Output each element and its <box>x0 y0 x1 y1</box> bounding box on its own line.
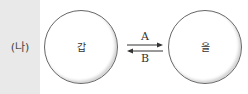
panel-label: (나) <box>0 38 40 54</box>
node-right-circle: 을 <box>168 10 242 84</box>
arrow-bottom-label: B <box>126 52 164 65</box>
exchange-arrows: A B <box>126 30 164 66</box>
diagram-panel: (나) 갑 A B 을 <box>0 0 248 94</box>
panel-label-strip: (나) <box>0 0 40 94</box>
node-left-circle: 갑 <box>44 10 118 84</box>
node-right-label: 을 <box>169 39 241 54</box>
node-left-label: 갑 <box>45 39 117 54</box>
